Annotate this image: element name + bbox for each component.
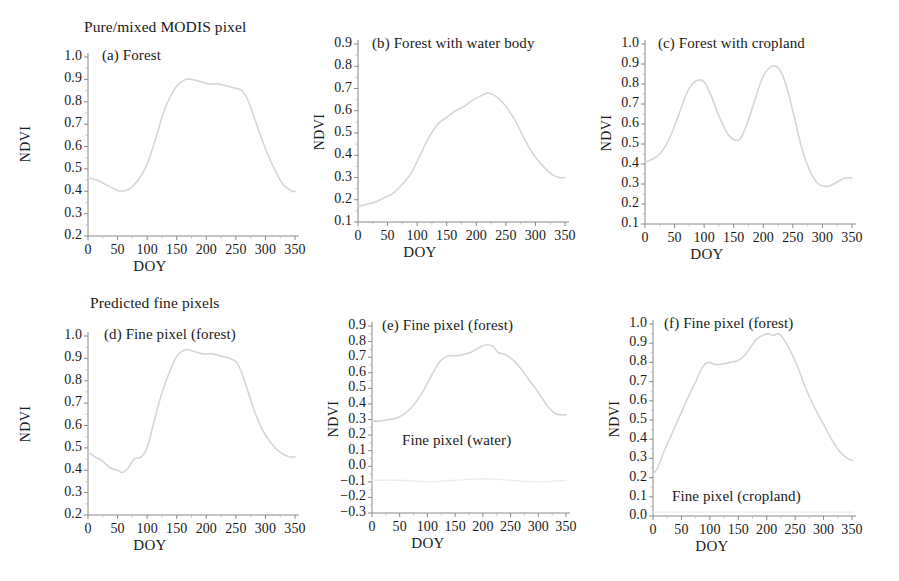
series-f-0 [653, 334, 852, 474]
plot-area-f [0, 0, 899, 581]
figure-root: Pure/mixed MODIS pixel Predicted fine pi… [0, 0, 899, 581]
